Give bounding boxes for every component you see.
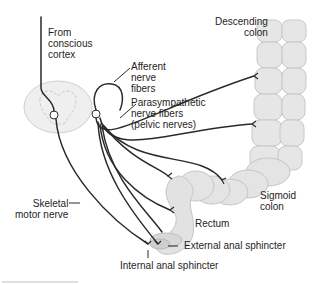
descending-colon <box>250 20 306 170</box>
cortex-synapse-node <box>50 111 58 119</box>
label-rectum: Rectum <box>195 218 229 229</box>
label-afferent-nerve-fibers: Afferent nerve fibers <box>131 61 166 94</box>
label-parasympathetic-nerve-fibers: Parasympathetic nerve fibers (pelvic ner… <box>131 97 205 130</box>
label-descending-colon: Descending colon <box>215 16 268 38</box>
label-skeletal-motor-nerve: Skeletal motor nerve <box>15 198 68 220</box>
label-external-anal-sphincter: External anal sphincter <box>184 240 286 251</box>
label-from-conscious-cortex: From conscious cortex <box>48 27 92 60</box>
diagram-canvas: From conscious cortex Afferent nerve fib… <box>0 0 315 284</box>
internal-anal-sphincter <box>150 239 170 249</box>
label-internal-anal-sphincter: Internal anal sphincter <box>120 260 218 271</box>
afferent-synapse-node <box>92 110 100 118</box>
spinal-cord <box>24 81 100 133</box>
label-sigmoid-colon: Sigmoid colon <box>260 190 296 212</box>
